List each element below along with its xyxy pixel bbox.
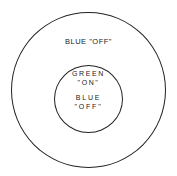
outer-region-label: BLUE "OFF"	[0, 37, 177, 46]
inner-label-blue: BLUE	[54, 94, 123, 101]
inner-label-green: GREEN	[54, 70, 123, 77]
inner-label-off: "OFF"	[54, 103, 123, 110]
inner-label-on: "ON"	[54, 79, 123, 86]
